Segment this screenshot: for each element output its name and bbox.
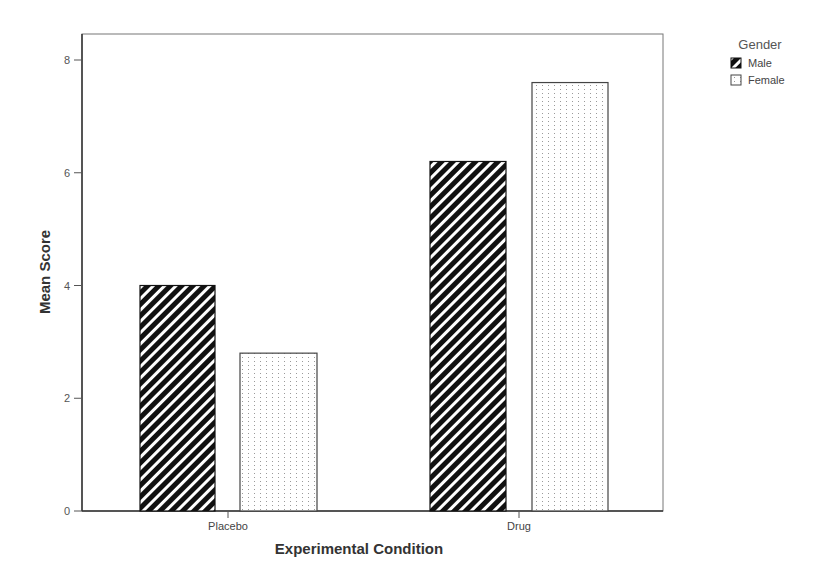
x-axis-title: Experimental Condition: [275, 540, 443, 557]
y-tick-label: 0: [64, 505, 70, 517]
x-tick-label: Drug: [507, 520, 531, 532]
bar-chart: 02468 PlaceboDrug Experimental Condition…: [0, 0, 831, 582]
legend-label-male: Male: [748, 57, 772, 69]
y-axis-title: Mean Score: [36, 230, 53, 314]
y-tick-label: 8: [64, 54, 70, 66]
legend-title: Gender: [738, 37, 782, 52]
bar-placebo-male: [140, 286, 215, 512]
legend-swatch-male: [731, 58, 741, 68]
y-tick-label: 6: [64, 167, 70, 179]
y-axis-ticks: 02468: [64, 54, 82, 517]
y-tick-label: 4: [64, 280, 70, 292]
x-axis-ticks: PlaceboDrug: [208, 511, 531, 532]
bar-drug-male: [430, 161, 506, 511]
legend: Gender Male Female: [731, 37, 785, 86]
x-tick-label: Placebo: [208, 520, 248, 532]
legend-swatch-female: [731, 75, 741, 85]
bar-placebo-female: [240, 353, 317, 511]
bar-drug-female: [532, 83, 608, 511]
y-tick-label: 2: [64, 392, 70, 404]
legend-label-female: Female: [748, 74, 785, 86]
